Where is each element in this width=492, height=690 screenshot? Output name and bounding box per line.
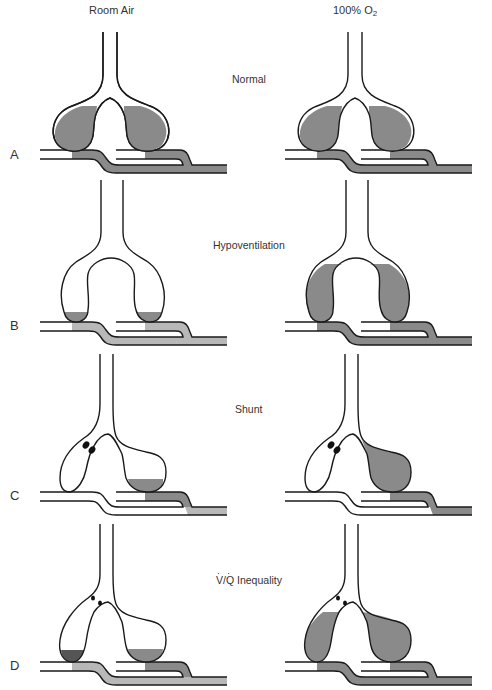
panel-b-100-o2 <box>285 180 472 345</box>
panel-d-100-o2 <box>285 524 472 685</box>
panel-b-room-air <box>40 180 227 345</box>
panel-c-100-o2 <box>285 354 472 515</box>
obstruction-icon <box>81 440 91 450</box>
capillary-network <box>40 150 227 173</box>
obstruction-icon <box>87 445 97 455</box>
ventilation-diagram <box>0 0 492 690</box>
panel-a-room-air <box>40 32 227 173</box>
panel-c-room-air <box>40 354 227 515</box>
obstruction-icon <box>91 596 95 601</box>
panel-a-100-o2 <box>285 32 472 173</box>
obstruction-icon <box>98 601 102 606</box>
panel-d-room-air <box>40 524 227 685</box>
